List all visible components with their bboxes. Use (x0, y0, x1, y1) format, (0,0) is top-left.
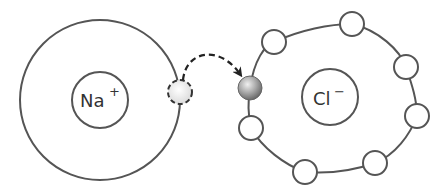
electron-transfer-arrow (183, 55, 240, 80)
chlorine-electron (363, 151, 387, 175)
chlorine-electron (239, 116, 263, 140)
ionic-bond-diagram: Na + Cl − (0, 0, 448, 196)
chlorine-charge: − (334, 84, 345, 99)
chlorine-electron (394, 55, 418, 79)
transferred-electron-origin (168, 80, 192, 104)
chlorine-electron (262, 30, 286, 54)
chloride-ion: Cl − (238, 12, 429, 184)
gained-electron (238, 76, 262, 100)
sodium-symbol: Na (80, 90, 105, 111)
chlorine-electron (405, 104, 429, 128)
sodium-ion: Na + (20, 20, 192, 180)
chlorine-electron (293, 160, 317, 184)
chlorine-symbol: Cl (313, 88, 331, 109)
chlorine-electron (340, 12, 364, 36)
sodium-charge: + (109, 84, 120, 99)
